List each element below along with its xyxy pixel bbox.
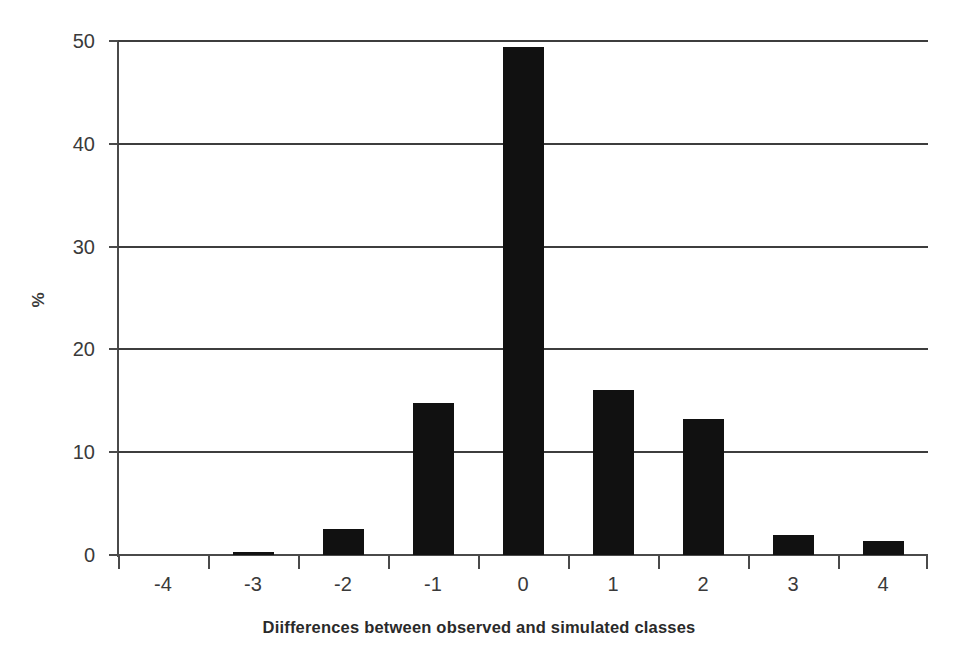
x-axis-tick-label: -1: [388, 572, 478, 596]
bar: [863, 541, 904, 555]
y-axis-tick: [109, 348, 118, 350]
y-axis-title-label: %: [29, 292, 49, 307]
y-axis-tick: [109, 40, 118, 42]
chart-figure: % 01020304050 -4-3-2-101234 Diifferences…: [0, 0, 958, 668]
plot-area: [118, 41, 928, 555]
bar-band: [298, 41, 388, 555]
x-axis-tick-label: -3: [208, 572, 298, 596]
x-axis-tick: [568, 556, 570, 569]
bar-band: [568, 41, 658, 555]
x-axis-tick: [748, 556, 750, 569]
y-axis-tick-label: 20: [49, 339, 95, 359]
bar-band: [118, 41, 208, 555]
y-axis-tick-label: 10: [49, 442, 95, 462]
x-axis-tick-label: 2: [658, 572, 748, 596]
x-axis-tick-label: 0: [478, 572, 568, 596]
x-axis-tick: [478, 556, 480, 569]
bar: [233, 552, 274, 555]
y-axis-tick: [109, 246, 118, 248]
y-axis-tick-label: 50: [49, 31, 95, 51]
bar-band: [208, 41, 298, 555]
x-axis-title: Diifferences between observed and simula…: [0, 618, 958, 637]
bar: [413, 403, 454, 555]
y-axis-tick: [109, 451, 118, 453]
bar: [683, 419, 724, 555]
bar: [593, 390, 634, 556]
x-axis-tick-label: 4: [838, 572, 928, 596]
y-axis-tick-label: 40: [49, 134, 95, 154]
x-axis-tick: [298, 556, 300, 569]
bar-band: [388, 41, 478, 555]
x-axis-tick: [388, 556, 390, 569]
bar-band: [658, 41, 748, 555]
bar: [323, 529, 364, 555]
bar-band: [838, 41, 928, 555]
x-axis-tick: [208, 556, 210, 569]
bar: [773, 535, 814, 555]
x-axis-ticks: [118, 556, 930, 570]
x-axis-tick-label: -4: [118, 572, 208, 596]
x-axis-tick-labels: -4-3-2-101234: [118, 572, 928, 602]
x-axis-tick-label: -2: [298, 572, 388, 596]
bar: [503, 47, 544, 555]
bar-band: [478, 41, 568, 555]
x-axis-tick: [118, 556, 120, 569]
y-axis-tick-label: 30: [49, 237, 95, 257]
x-axis-tick-label: 3: [748, 572, 838, 596]
y-axis-tick: [109, 143, 118, 145]
x-axis-tick: [838, 556, 840, 569]
x-axis-tick-label: 1: [568, 572, 658, 596]
bar-band: [748, 41, 838, 555]
x-axis-right-edge-tick: [926, 556, 928, 569]
y-axis-tick-label: 0: [49, 545, 95, 565]
y-axis-tick-labels: 01020304050: [49, 0, 95, 668]
y-axis-tick: [109, 554, 118, 556]
x-axis-tick: [658, 556, 660, 569]
